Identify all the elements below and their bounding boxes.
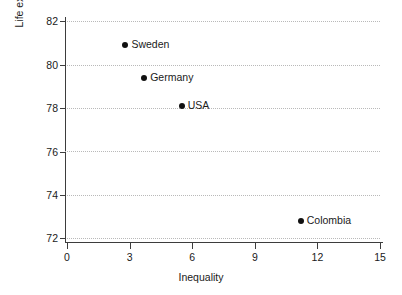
scatter-chart: SwedenGermanyUSAColombia 727476788082 03… <box>0 0 402 295</box>
y-tick-mark <box>60 238 66 239</box>
data-point[interactable] <box>122 42 128 48</box>
gridline-horizontal <box>65 108 380 109</box>
y-tick-mark <box>60 108 66 109</box>
data-point-label: Germany <box>150 72 193 83</box>
gridline-horizontal <box>65 195 380 196</box>
data-point-label: Sweden <box>131 39 169 50</box>
y-tick-label: 74 <box>18 190 58 201</box>
x-axis-title: Inequality <box>0 272 402 283</box>
x-tick-mark <box>130 243 131 249</box>
x-tick-mark <box>67 243 68 249</box>
y-axis-title: Life expectancy <box>9 0 27 139</box>
x-axis-line <box>65 242 383 243</box>
plot-area: SwedenGermanyUSAColombia <box>67 21 380 238</box>
x-tick-label: 6 <box>172 252 212 263</box>
data-point-label: USA <box>188 100 210 111</box>
x-tick-label: 9 <box>235 252 275 263</box>
x-tick-mark <box>192 243 193 249</box>
y-tick-mark <box>60 21 66 22</box>
y-tick-mark <box>60 152 66 153</box>
y-axis-line <box>65 17 66 243</box>
x-tick-mark <box>380 243 381 249</box>
y-tick-mark <box>60 65 66 66</box>
y-tick-label: 72 <box>18 233 58 244</box>
x-tick-mark <box>317 243 318 249</box>
data-point[interactable] <box>298 218 304 224</box>
gridline-horizontal <box>65 21 380 22</box>
x-tick-label: 0 <box>47 252 87 263</box>
x-tick-label: 3 <box>110 252 150 263</box>
x-tick-label: 15 <box>360 252 400 263</box>
y-axis-title-wrapper: Life expectancy <box>9 0 27 139</box>
data-point[interactable] <box>141 75 147 81</box>
data-point[interactable] <box>179 103 185 109</box>
x-tick-mark <box>255 243 256 249</box>
x-tick-label: 12 <box>297 252 337 263</box>
data-point-label: Colombia <box>307 215 351 226</box>
y-tick-mark <box>60 195 66 196</box>
gridline-horizontal <box>65 65 380 66</box>
gridline-horizontal <box>65 151 380 152</box>
y-tick-label: 76 <box>18 147 58 158</box>
gridline-horizontal <box>65 238 380 239</box>
